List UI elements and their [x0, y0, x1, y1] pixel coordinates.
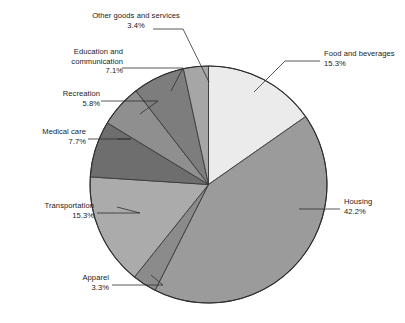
label-food-name: Food and beverages [324, 49, 404, 59]
label-apparel: Apparel 3.3% [43, 273, 109, 292]
label-medical-care-name: Medical care [6, 127, 86, 137]
label-education-and-communication: Education and communication 7.1% [27, 47, 123, 76]
label-food-and-beverages: Food and beverages 15.3% [324, 49, 404, 68]
label-housing-name: Housing [344, 197, 404, 207]
label-apparel-value: 3.3% [43, 283, 109, 293]
label-housing-value: 42.2% [344, 207, 404, 217]
label-transportation-value: 15.3% [8, 211, 94, 221]
label-recreation-value: 5.8% [22, 99, 100, 109]
label-recreation-name: Recreation [22, 89, 100, 99]
pie-slices [90, 66, 327, 303]
label-education-value: 7.1% [27, 66, 123, 76]
label-apparel-name: Apparel [43, 273, 109, 283]
label-other-goods-name: Other goods and services [71, 11, 201, 21]
label-education-line1: Education and [27, 47, 123, 57]
label-medical-care-value: 7.7% [6, 137, 86, 147]
label-transportation: Transportation 15.3% [8, 201, 94, 220]
label-education-line2: communication [27, 57, 123, 67]
label-medical-care: Medical care 7.7% [6, 127, 86, 146]
label-housing: Housing 42.2% [344, 197, 404, 216]
label-transportation-name: Transportation [8, 201, 94, 211]
pie-chart: Other goods and services 3.4% Education … [0, 0, 405, 323]
label-other-goods-and-services: Other goods and services 3.4% [71, 11, 201, 30]
label-food-value: 15.3% [324, 59, 404, 69]
label-recreation: Recreation 5.8% [22, 89, 100, 108]
label-other-goods-value: 3.4% [71, 21, 201, 31]
